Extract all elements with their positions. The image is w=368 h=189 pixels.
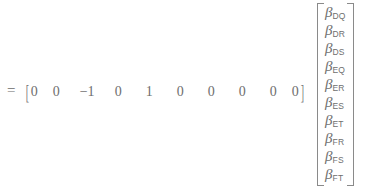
- column-vector-left-bracket: [317, 3, 324, 186]
- row-vector-entry: 0: [41, 85, 72, 99]
- row-vector-entry: 1: [134, 85, 165, 99]
- row-vector-entry: −1: [72, 85, 103, 99]
- matrix-equation: = [ 0 0 −1 0 1 0 0 0 0 0 ] βDQ βDR βDS: [0, 0, 368, 189]
- row-vector-entry: 0: [31, 85, 41, 99]
- column-vector-entry: βFT: [325, 167, 346, 184]
- beta-subscript: FR: [332, 138, 344, 147]
- column-vector-entry: βEQ: [325, 59, 346, 76]
- beta-symbol: β: [325, 5, 332, 20]
- row-vector-entry: 0: [165, 85, 196, 99]
- beta-symbol: β: [325, 23, 332, 38]
- column-vector-entry: βES: [325, 95, 346, 112]
- beta-subscript: EQ: [332, 66, 345, 75]
- beta-symbol: β: [325, 95, 332, 110]
- row-vector-open-bracket: [: [26, 82, 29, 102]
- row-vector-entry: 0: [258, 85, 289, 99]
- row-vector-entry: 0: [196, 85, 227, 99]
- beta-symbol: β: [325, 149, 332, 164]
- row-vector-entry: 0: [227, 85, 258, 99]
- beta-subscript: DQ: [332, 12, 345, 21]
- column-vector-entry: βET: [325, 113, 346, 130]
- column-vector-entry: βDS: [325, 41, 346, 58]
- column-vector-right-bracket: [347, 3, 354, 186]
- row-vector-close-bracket: ]: [300, 82, 303, 102]
- row-vector-entries: 0 0 −1 0 1 0 0 0 0 0: [31, 85, 299, 99]
- column-vector-entry: βFS: [325, 149, 346, 166]
- row-vector-entry: 0: [103, 85, 134, 99]
- row-vector-entry: 0: [289, 85, 299, 99]
- beta-symbol: β: [325, 113, 332, 128]
- column-vector-entry: βER: [325, 77, 346, 94]
- beta-symbol: β: [325, 131, 332, 146]
- beta-subscript: FS: [332, 156, 343, 165]
- beta-subscript: ET: [332, 120, 343, 129]
- equals-sign: =: [7, 83, 15, 98]
- row-vector: [ 0 0 −1 0 1 0 0 0 0 0 ]: [24, 81, 305, 103]
- column-vector-entry: βDR: [325, 23, 346, 40]
- column-vector: βDQ βDR βDS βEQ βER βES βET βFR: [317, 3, 354, 186]
- beta-subscript: ER: [332, 84, 344, 93]
- beta-subscript: DS: [332, 48, 344, 57]
- column-vector-entries: βDQ βDR βDS βEQ βER βES βET βFR: [324, 3, 347, 186]
- column-vector-entry: βDQ: [325, 5, 346, 22]
- beta-symbol: β: [325, 77, 332, 92]
- beta-subscript: DR: [332, 30, 345, 39]
- column-vector-entry: βFR: [325, 131, 346, 148]
- beta-symbol: β: [325, 167, 332, 182]
- beta-subscript: ES: [332, 102, 344, 111]
- beta-subscript: FT: [332, 174, 343, 183]
- beta-symbol: β: [325, 41, 332, 56]
- beta-symbol: β: [325, 59, 332, 74]
